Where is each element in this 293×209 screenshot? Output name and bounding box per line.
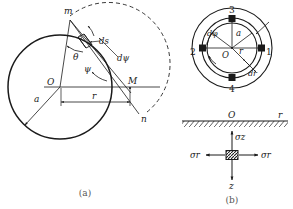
label-b-r: r <box>239 46 244 56</box>
label-pos-2: 2 <box>190 47 196 57</box>
label-dpsi: dψ <box>117 53 129 63</box>
element-pos-1 <box>258 45 265 52</box>
label-axis-z: z <box>228 181 234 191</box>
psi-arc <box>92 72 107 81</box>
label-theta: θ <box>73 52 79 62</box>
label-axis-r: r <box>278 110 283 120</box>
stress-element-box <box>226 151 238 160</box>
label-ds: ds <box>99 36 109 46</box>
label-a: a <box>34 94 39 104</box>
label-m: m <box>64 6 73 16</box>
label-sigma-r-left: σr <box>190 150 201 160</box>
caption-b: (b) <box>226 195 239 205</box>
surface-hatching <box>182 121 288 127</box>
line-m-O <box>60 20 70 87</box>
label-sigma-z: σz <box>235 132 246 142</box>
point-M-dot <box>129 87 131 89</box>
label-dphi: dφ <box>207 29 218 38</box>
label-M: M <box>127 76 138 86</box>
element-pos-2 <box>199 45 206 52</box>
label-sigma-r-right: σr <box>261 150 272 160</box>
label-r: r <box>92 91 97 101</box>
label-pos-3: 3 <box>229 5 235 15</box>
radius-a-line <box>25 87 60 125</box>
label-origin-O: O <box>228 110 236 120</box>
label-pos-1: 1 <box>266 47 272 57</box>
chord-mn <box>70 20 139 114</box>
panel-b-bottom: O r z σz σr σr (b) <box>182 110 288 205</box>
center-dot <box>231 47 233 49</box>
dpsi-arc <box>88 26 94 36</box>
label-b-a: a <box>236 28 241 38</box>
label-psi: ψ <box>84 64 92 74</box>
caption-a: (a) <box>79 188 91 198</box>
label-pos-4: 4 <box>229 84 235 94</box>
element-pos-4 <box>229 74 236 81</box>
panel-b-top: O 1 2 3 4 a r dφ dr <box>190 5 272 94</box>
label-dr: dr <box>248 69 258 78</box>
figure-root: m n O M θ ψ ds dψ a r (a) <box>0 0 293 209</box>
label-center-O: O <box>222 50 229 60</box>
label-O: O <box>47 77 55 87</box>
panel-a: m n O M θ ψ ds dψ a r (a) <box>8 2 170 198</box>
label-n: n <box>141 114 147 124</box>
